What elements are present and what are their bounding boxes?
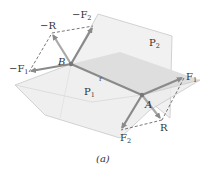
label-f2: F2 xyxy=(120,132,131,145)
force-couple-diagram: −F1 −R −F2 B P2 P1 r A F1 R F2 (a) xyxy=(0,0,208,182)
label-neg-f1: −F1 xyxy=(9,63,28,76)
figure-caption: (a) xyxy=(96,153,110,164)
point-a xyxy=(140,93,144,97)
label-neg-f2: −F2 xyxy=(72,9,91,22)
label-point-a: A xyxy=(144,99,152,110)
label-r: R xyxy=(160,122,168,133)
label-neg-r: −R xyxy=(40,20,56,31)
point-b xyxy=(69,62,73,66)
label-point-b: B xyxy=(57,56,65,67)
